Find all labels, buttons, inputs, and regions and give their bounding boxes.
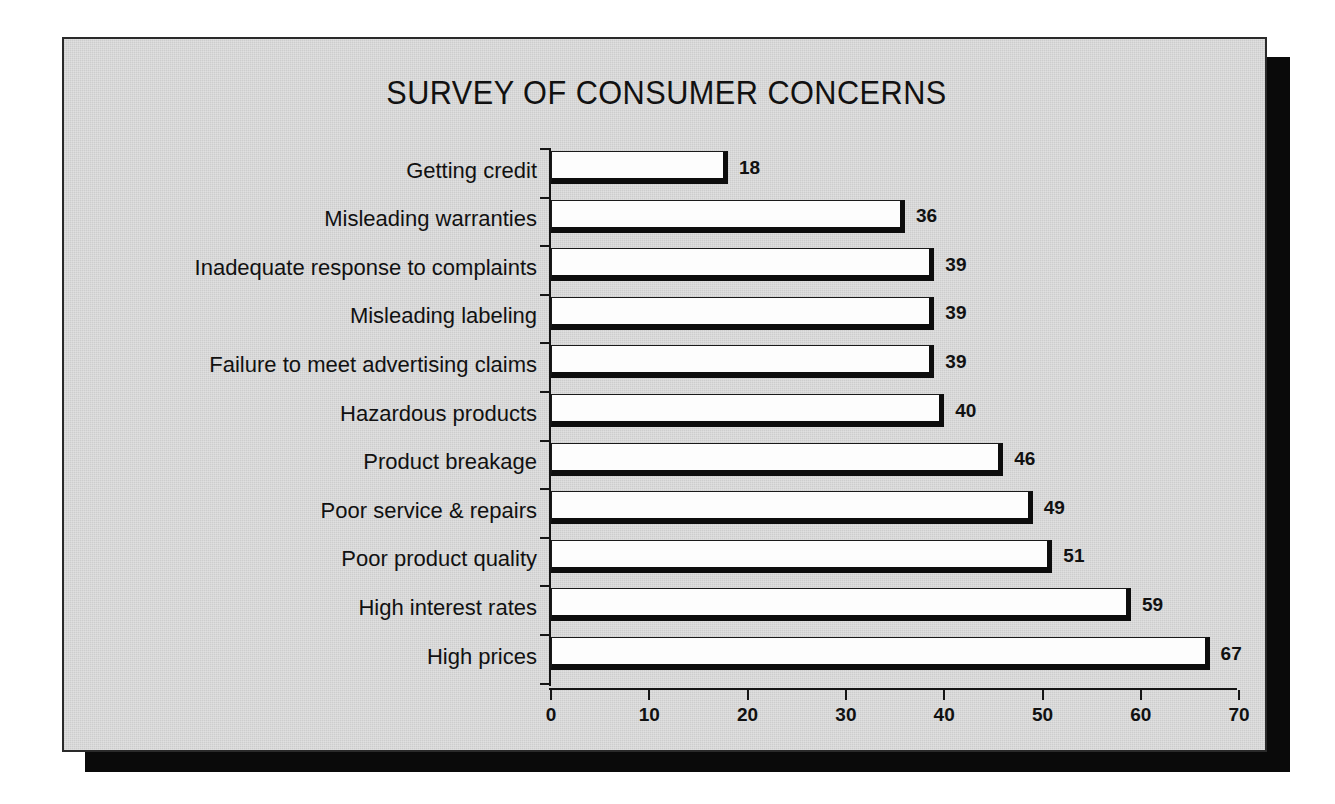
bar [551, 394, 944, 427]
x-axis-tick [1238, 690, 1240, 700]
bar [551, 588, 1131, 621]
category-label: Failure to meet advertising claims [209, 352, 537, 378]
y-axis-tick [540, 148, 551, 150]
category-label: Misleading warranties [324, 206, 537, 232]
x-axis-tick [1140, 690, 1142, 700]
y-axis-tick [540, 440, 551, 442]
bar-value-label: 39 [945, 302, 966, 324]
bar-value-label: 59 [1142, 594, 1163, 616]
y-axis-tick [540, 342, 551, 344]
x-axis-tick-label: 10 [639, 704, 660, 726]
x-axis-tick-label: 40 [934, 704, 955, 726]
x-axis-tick [747, 690, 749, 700]
x-axis-tick-label: 60 [1130, 704, 1151, 726]
y-axis-tick [540, 488, 551, 490]
category-label: Getting credit [406, 158, 537, 184]
bar-value-label: 40 [955, 400, 976, 422]
x-axis-tick-label: 20 [737, 704, 758, 726]
y-axis-tick [540, 294, 551, 296]
category-label: Hazardous products [340, 401, 537, 427]
bar [551, 248, 934, 281]
bar-value-label: 46 [1014, 448, 1035, 470]
x-axis-tick [1042, 690, 1044, 700]
bar-value-label: 67 [1221, 643, 1242, 665]
category-label: High prices [427, 644, 537, 670]
y-axis-tick [540, 197, 551, 199]
x-axis-tick-label: 70 [1229, 704, 1250, 726]
y-axis-tick [540, 683, 551, 685]
bar [551, 345, 934, 378]
y-axis-tick [540, 585, 551, 587]
category-label: Product breakage [363, 449, 537, 475]
category-label: High interest rates [358, 595, 537, 621]
x-axis-tick-label: 0 [546, 704, 557, 726]
x-axis-tick [648, 690, 650, 700]
y-axis-tick [540, 391, 551, 393]
x-axis-tick-label: 50 [1032, 704, 1053, 726]
x-axis-tick-label: 30 [835, 704, 856, 726]
y-axis-tick [540, 537, 551, 539]
x-axis-line [549, 688, 1237, 690]
bar [551, 297, 934, 330]
bar-value-label: 39 [945, 351, 966, 373]
chart-canvas: SURVEY OF CONSUMER CONCERNS Getting cred… [0, 0, 1335, 804]
x-axis-tick [845, 690, 847, 700]
bar-value-label: 36 [916, 205, 937, 227]
y-axis-tick [540, 634, 551, 636]
x-axis-tick [943, 690, 945, 700]
x-axis-tick [550, 690, 552, 700]
category-label: Poor product quality [341, 546, 537, 572]
bar-value-label: 18 [739, 157, 760, 179]
bar [551, 491, 1033, 524]
bar [551, 443, 1003, 476]
plot-area: Getting credit18Misleading warranties36I… [64, 39, 1265, 750]
bar [551, 540, 1052, 573]
bar [551, 200, 905, 233]
y-axis-tick [540, 245, 551, 247]
bar-value-label: 39 [945, 254, 966, 276]
bar-value-label: 49 [1044, 497, 1065, 519]
chart-panel: SURVEY OF CONSUMER CONCERNS Getting cred… [62, 37, 1267, 752]
category-label: Inadequate response to complaints [195, 255, 537, 281]
category-label: Misleading labeling [350, 303, 537, 329]
bar [551, 151, 728, 184]
bar-value-label: 51 [1063, 545, 1084, 567]
category-label: Poor service & repairs [321, 498, 537, 524]
bar [551, 637, 1210, 670]
